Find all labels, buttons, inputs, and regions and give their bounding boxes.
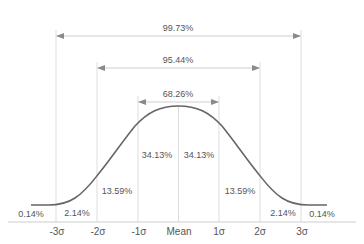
label-left-tail: 0.14%: [18, 209, 44, 219]
label-m3-m2: 2.14%: [64, 208, 90, 218]
tick-minus-2sigma: -2σ: [90, 226, 105, 238]
tick-mean: Mean: [166, 226, 191, 238]
label-right-tail: 0.14%: [309, 209, 335, 219]
tick-plus-2sigma: 2σ: [254, 226, 266, 238]
label-99-73: 99.73%: [163, 23, 194, 33]
label-68-26: 68.26%: [163, 89, 194, 99]
tick-minus-1sigma: -1σ: [131, 226, 146, 238]
label-p1-p2: 13.59%: [225, 186, 256, 196]
bell-curve-chart: [0, 0, 364, 244]
tick-plus-3sigma: 3σ: [296, 226, 308, 238]
label-m2-m1: 13.59%: [102, 186, 133, 196]
label-mean-p1: 34.13%: [184, 150, 215, 160]
label-p2-p3: 2.14%: [270, 208, 296, 218]
tick-plus-1sigma: 1σ: [213, 226, 225, 238]
tick-minus-3sigma: -3σ: [49, 226, 64, 238]
label-m1-mean: 34.13%: [142, 150, 173, 160]
label-95-44: 95.44%: [163, 55, 194, 65]
